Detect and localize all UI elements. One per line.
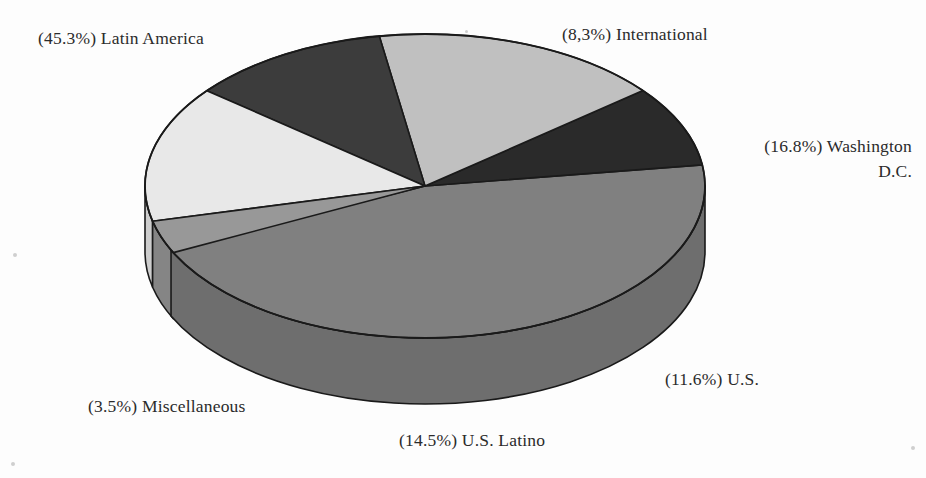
- scan-speck: [11, 462, 15, 466]
- slice-label-latin-america: (45.3%) Latin America: [38, 26, 204, 51]
- pie-top-slices: [145, 34, 705, 338]
- slice-label-washington-dc-line2: D.C.: [712, 159, 912, 184]
- slice-label-international: (8,3%) International: [562, 22, 708, 47]
- slice-label-us: (11.6%) U.S.: [665, 367, 759, 392]
- slice-label-washington-dc: (16.8%) Washington D.C.: [712, 134, 912, 185]
- scan-speck: [13, 253, 17, 257]
- pie-chart-figure: (45.3%) Latin America (8,3%) Internation…: [0, 0, 926, 478]
- slice-label-miscellaneous: (3.5%) Miscellaneous: [88, 394, 246, 419]
- scan-speck: [465, 30, 468, 33]
- slice-label-washington-dc-line1: (16.8%) Washington: [712, 134, 912, 159]
- scan-speck: [911, 446, 915, 450]
- slice-label-us-latino: (14.5%) U.S. Latino: [399, 428, 545, 453]
